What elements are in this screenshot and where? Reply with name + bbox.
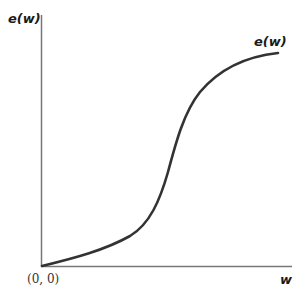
s-curve xyxy=(42,53,278,266)
origin-label: (0, 0) xyxy=(27,272,59,286)
x-axis-label: w xyxy=(280,272,292,287)
curve-label: e(w) xyxy=(254,34,287,49)
y-axis-label: e(w) xyxy=(8,11,41,26)
